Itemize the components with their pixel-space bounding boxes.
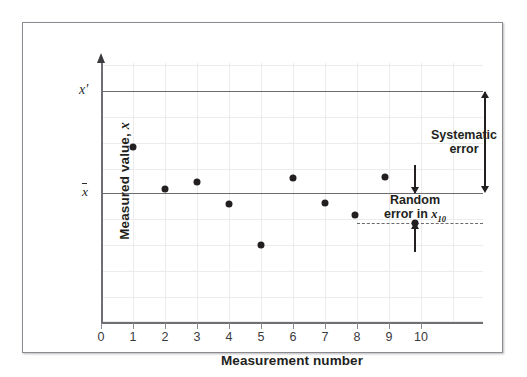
data-point (290, 175, 297, 182)
x-axis-tick (421, 323, 422, 329)
x-axis-tick (357, 323, 358, 329)
y-axis-title-symbol: x (117, 122, 132, 129)
data-point (258, 242, 265, 249)
systematic-error-arrowhead-down-icon (481, 186, 489, 193)
random-error-line-2-prefix: error in (384, 207, 431, 221)
x-axis-tick-label: 4 (214, 330, 244, 344)
gridline-horizontal (101, 245, 483, 246)
gridline-horizontal (101, 117, 483, 118)
reference-line-x-prime (101, 91, 483, 93)
data-point (382, 174, 389, 181)
gridline-horizontal (101, 297, 483, 298)
y-axis-label-x-prime: x′ (79, 82, 88, 98)
x-axis-line (101, 322, 483, 324)
x-axis-tick-label: 7 (310, 330, 340, 344)
x-axis-tick-label: 9 (374, 330, 404, 344)
random-error-line-1: Random (390, 193, 440, 207)
x-axis-tick-label: 5 (246, 330, 276, 344)
data-point (226, 201, 233, 208)
x-axis-tick-label: 3 (182, 330, 212, 344)
x-axis-title: Measurement number (101, 353, 483, 368)
systematic-error-line-2: error (449, 142, 478, 156)
x-axis-tick-label: 2 (150, 330, 180, 344)
gridline-horizontal (101, 169, 483, 170)
x-axis-tick (261, 323, 262, 329)
x-axis-tick-label: 8 (342, 330, 372, 344)
x-axis-tick (325, 323, 326, 329)
x-axis-tick (165, 323, 166, 329)
x-axis-tick (101, 323, 102, 329)
x-axis-tick (197, 323, 198, 329)
data-point (322, 200, 329, 207)
gridline-horizontal (101, 65, 483, 66)
random-error-subscript: 10 (438, 214, 447, 224)
y-axis-label-x-bar: x (82, 184, 88, 200)
x-axis-tick-label: 10 (406, 330, 436, 344)
data-point (162, 186, 169, 193)
systematic-error-annotation: Systematic error (421, 128, 507, 156)
figure-scatter-measurement-error: 0 1 2 3 4 5 6 7 8 9 10 x′ x Systematic e… (0, 0, 527, 377)
y-axis-title-text: Measured value, (117, 129, 132, 239)
figure-frame: 0 1 2 3 4 5 6 7 8 9 10 x′ x Systematic e… (22, 22, 503, 353)
y-axis-line (101, 61, 103, 323)
x-bar-symbol: x (82, 184, 88, 200)
data-point (194, 179, 201, 186)
x-axis-tick (293, 323, 294, 329)
x-axis-tick-label: 6 (278, 330, 308, 344)
random-error-annotation: Random error in x10 (356, 193, 474, 226)
gridline-horizontal (101, 271, 483, 272)
systematic-error-line-1: Systematic (431, 128, 497, 142)
x-axis-tick (229, 323, 230, 329)
x-axis-tick-label: 1 (118, 330, 148, 344)
y-axis-title: Measured value, x (117, 71, 133, 291)
systematic-error-arrowhead-up-icon (481, 91, 489, 98)
x-axis-tick (389, 323, 390, 329)
y-axis-arrowhead-icon (97, 53, 105, 63)
x-axis-tick-label: 0 (86, 330, 116, 344)
x-axis-tick (133, 323, 134, 329)
